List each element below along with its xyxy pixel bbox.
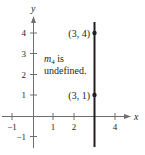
annotation-var: m xyxy=(44,53,51,64)
y-tick-label: 1 xyxy=(22,90,27,100)
y-tick-label: −1 xyxy=(16,132,26,142)
x-tick-label: 4 xyxy=(113,122,118,132)
x-axis-label: x xyxy=(133,111,139,122)
point-3-1 xyxy=(92,93,96,97)
x-tick-label: −1 xyxy=(7,122,17,132)
x-tick-label: 2 xyxy=(72,122,77,132)
x-tick-label: 1 xyxy=(51,122,56,132)
y-axis-label: y xyxy=(30,3,36,14)
slope-annotation: m4 is undefined. xyxy=(44,53,87,76)
x-axis-arrow-icon xyxy=(124,114,131,119)
annotation-line2: undefined. xyxy=(44,65,87,76)
y-tick-label: 3 xyxy=(22,49,27,59)
y-tick-label: 4 xyxy=(22,28,27,38)
y-axis: y 4 3 2 1 −1 xyxy=(16,3,37,148)
annotation-rest: is xyxy=(55,53,64,64)
y-axis-arrow-icon xyxy=(31,16,36,23)
y-tick-label: 2 xyxy=(22,70,27,80)
chart: x −1 1 2 4 y 4 3 2 1 −1 (3, 4) (3, 1) m4… xyxy=(0,0,145,155)
x-axis: x −1 1 2 4 xyxy=(2,111,139,132)
point-3-4 xyxy=(92,31,96,35)
point-label-3-1: (3, 1) xyxy=(68,90,90,102)
point-label-3-4: (3, 4) xyxy=(68,28,90,40)
